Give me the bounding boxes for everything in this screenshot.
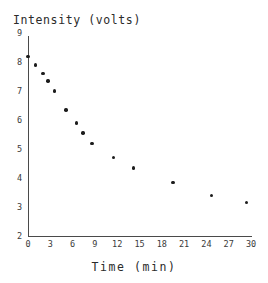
y-tick-label-9: 9 — [8, 28, 22, 38]
data-point — [90, 142, 93, 145]
y-tick-label-8: 8 — [8, 57, 22, 67]
x-tick-label-27: 27 — [221, 239, 237, 249]
x-tick-label-15: 15 — [132, 239, 148, 249]
data-point — [81, 131, 84, 134]
data-point — [53, 89, 56, 92]
data-point — [75, 121, 78, 124]
data-point — [132, 166, 135, 169]
data-point — [210, 194, 213, 197]
y-tick-label-4: 4 — [8, 173, 22, 183]
data-point — [34, 63, 37, 66]
y-tick-label-7: 7 — [8, 86, 22, 96]
data-point — [41, 72, 44, 75]
data-point — [26, 55, 29, 58]
data-point — [64, 108, 67, 111]
data-point — [245, 201, 248, 204]
y-axis-line — [28, 36, 29, 237]
scatter-plot-figure: Intensity (volts) 23456789 0369121518212… — [0, 0, 268, 283]
x-tick-label-6: 6 — [65, 239, 81, 249]
x-axis-line — [28, 236, 252, 237]
y-tick-label-6: 6 — [8, 115, 22, 125]
x-axis-title: Time (min) — [0, 260, 268, 274]
y-tick-label-3: 3 — [8, 202, 22, 212]
x-tick-label-9: 9 — [87, 239, 103, 249]
x-tick-label-12: 12 — [109, 239, 125, 249]
data-point — [112, 156, 115, 159]
y-tick-label-5: 5 — [8, 144, 22, 154]
data-point — [171, 181, 174, 184]
plot-area: 23456789 036912151821242730 — [0, 0, 268, 283]
x-tick-label-30: 30 — [243, 239, 259, 249]
x-tick-label-18: 18 — [154, 239, 170, 249]
data-point — [46, 79, 49, 82]
x-tick-label-0: 0 — [20, 239, 36, 249]
x-tick-label-24: 24 — [198, 239, 214, 249]
x-tick-label-3: 3 — [42, 239, 58, 249]
x-tick-label-21: 21 — [176, 239, 192, 249]
